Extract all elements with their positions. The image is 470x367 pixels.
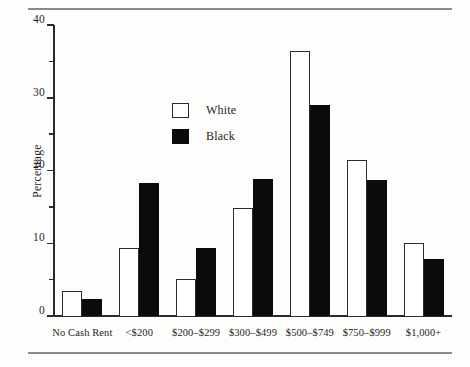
x-axis-category-label: $300–$499 bbox=[229, 327, 277, 338]
x-axis-category-label: No Cash Rent bbox=[52, 327, 112, 338]
legend-item-black: Black bbox=[172, 123, 236, 149]
x-axis-category-label: $500–$749 bbox=[286, 327, 334, 338]
chart-figure: 010203040 Percentage No Cash Rent<$200$2… bbox=[0, 0, 470, 367]
x-axis-category-label: $750–$999 bbox=[343, 327, 391, 338]
bar-group: No Cash Rent bbox=[54, 25, 111, 316]
bar-white bbox=[176, 279, 196, 316]
bar-white bbox=[233, 208, 253, 316]
legend-swatch-white-icon bbox=[172, 103, 189, 118]
bar-black bbox=[196, 248, 216, 316]
bar-group: <$200 bbox=[111, 25, 168, 316]
bar-black bbox=[310, 105, 330, 316]
legend-swatch-black-icon bbox=[172, 129, 189, 144]
plot-area: 010203040 Percentage No Cash Rent<$200$2… bbox=[54, 25, 452, 316]
bar-white bbox=[119, 248, 139, 316]
y-tick-label: 40 bbox=[33, 13, 45, 25]
x-axis-category-label: <$200 bbox=[126, 327, 153, 338]
bar-black bbox=[367, 180, 387, 316]
y-tick-major bbox=[47, 170, 54, 172]
y-tick-major bbox=[47, 243, 54, 245]
bar-groups: No Cash Rent<$200$200–$299$300–$499$500–… bbox=[54, 25, 452, 316]
bar-white bbox=[62, 291, 82, 316]
bar-white bbox=[347, 160, 367, 316]
y-tick-label: 30 bbox=[33, 86, 45, 98]
y-tick-major bbox=[47, 97, 54, 99]
bar-white bbox=[404, 243, 424, 316]
bar-group: $750–$999 bbox=[338, 25, 395, 316]
bar-black bbox=[139, 183, 159, 316]
bar-group: $500–$749 bbox=[281, 25, 338, 316]
legend-item-white: White bbox=[172, 97, 236, 123]
bar-black bbox=[253, 179, 273, 316]
y-tick-major bbox=[47, 24, 54, 26]
bar-black bbox=[82, 299, 102, 316]
x-axis-category-label: $1,000+ bbox=[406, 327, 442, 338]
bar-group: $300–$499 bbox=[225, 25, 282, 316]
bar-black bbox=[424, 259, 444, 316]
y-tick-label: 0 bbox=[39, 304, 45, 316]
chart-legend: White Black bbox=[172, 97, 236, 149]
bar-group: $1,000+ bbox=[395, 25, 452, 316]
legend-label-white: White bbox=[206, 103, 236, 118]
bottom-rule bbox=[28, 352, 452, 354]
y-axis-label: Percentage bbox=[31, 144, 43, 197]
y-tick-major bbox=[47, 315, 54, 317]
top-rule bbox=[28, 8, 452, 10]
legend-label-black: Black bbox=[206, 129, 235, 144]
y-tick-label: 10 bbox=[33, 231, 45, 243]
bar-white bbox=[290, 51, 310, 316]
x-axis-category-label: $200–$299 bbox=[172, 327, 220, 338]
bar-group: $200–$299 bbox=[168, 25, 225, 316]
